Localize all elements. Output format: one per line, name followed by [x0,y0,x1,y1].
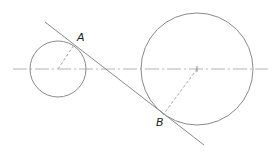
point-label-a: A [76,31,85,44]
radius-b [163,69,197,115]
tangent-diagram: A B [0,0,275,152]
radius-a [58,45,74,69]
tangent-line [45,22,204,145]
point-label-b: B [156,116,164,129]
diagram-canvas: A B [0,0,275,152]
